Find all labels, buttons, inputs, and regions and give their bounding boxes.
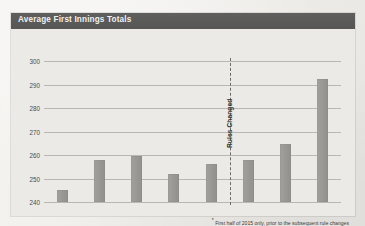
bar <box>131 156 142 202</box>
y-axis-tick-label: 260 <box>16 152 40 159</box>
bar <box>57 190 68 202</box>
gridline <box>44 132 341 133</box>
y-axis-tick-label: 280 <box>16 105 40 112</box>
y-axis: 240250260270280290300 <box>14 61 40 202</box>
screenshot-root: Average First Innings Totals 24025026027… <box>0 0 365 226</box>
chart-panel: Average First Innings Totals 24025026027… <box>11 13 355 216</box>
bar <box>168 174 179 202</box>
gridline <box>44 179 341 180</box>
bar <box>206 164 217 202</box>
gridline <box>44 155 341 156</box>
plot-area: Rules Changed 20082009201020112012201320… <box>44 61 341 202</box>
gridline <box>44 61 341 62</box>
y-axis-tick-label: 270 <box>16 128 40 135</box>
y-axis-tick-label: 300 <box>16 58 40 65</box>
y-axis-tick-label: 240 <box>16 199 40 206</box>
rules-changed-label: Rules Changed <box>226 99 233 148</box>
bar <box>94 160 105 202</box>
gridline <box>44 85 341 86</box>
chart-title: Average First Innings Totals <box>18 15 131 24</box>
footnote-text: First half of 2015 only, prior to the su… <box>214 220 349 226</box>
bar <box>280 144 291 202</box>
chart-header-bar: Average First Innings Totals <box>11 13 355 29</box>
bar <box>243 160 254 202</box>
y-axis-tick-label: 290 <box>16 81 40 88</box>
gridline <box>44 202 341 203</box>
plot-wrapper: 240250260270280290300 Rules Changed 2008… <box>11 29 355 216</box>
bar <box>317 79 328 202</box>
y-axis-tick-label: 250 <box>16 175 40 182</box>
chart-footnote: * First half of 2015 only, prior to the … <box>212 217 349 226</box>
gridline <box>44 108 341 109</box>
